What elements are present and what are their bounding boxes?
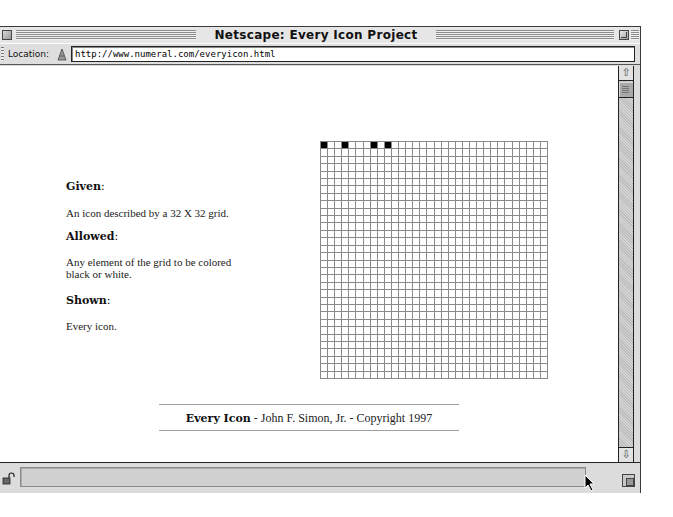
grid-cell[interactable] [364,283,371,290]
grid-cell[interactable] [470,305,477,312]
grid-cell[interactable] [484,268,491,275]
grid-cell[interactable] [520,164,527,171]
grid-cell[interactable] [356,253,363,260]
grid-cell[interactable] [470,320,477,327]
grid-cell[interactable] [328,186,335,193]
grid-cell[interactable] [420,305,427,312]
grid-cell[interactable] [435,268,442,275]
grid-cell[interactable] [399,142,406,149]
grid-cell[interactable] [463,342,470,349]
grid-cell[interactable] [413,268,420,275]
grid-cell[interactable] [349,164,356,171]
grid-cell[interactable] [385,172,392,179]
grid-cell[interactable] [498,290,505,297]
grid-cell[interactable] [456,223,463,230]
grid-cell[interactable] [527,172,534,179]
grid-cell[interactable] [470,172,477,179]
grid-cell[interactable] [449,290,456,297]
grid-cell[interactable] [364,179,371,186]
grid-cell[interactable] [385,268,392,275]
grid-cell[interactable] [520,342,527,349]
grid-cell[interactable] [364,275,371,282]
grid-cell[interactable] [371,298,378,305]
grid-cell[interactable] [498,342,505,349]
grid-cell[interactable] [328,164,335,171]
grid-cell[interactable] [371,268,378,275]
grid-cell[interactable] [399,298,406,305]
grid-cell[interactable] [406,349,413,356]
grid-cell[interactable] [491,186,498,193]
grid-cell[interactable] [364,231,371,238]
grid-cell[interactable] [541,275,548,282]
grid-cell[interactable] [427,372,434,379]
grid-cell[interactable] [328,327,335,334]
grid-cell[interactable] [435,172,442,179]
grid-cell[interactable] [520,142,527,149]
grid-cell[interactable] [456,349,463,356]
grid-cell[interactable] [449,164,456,171]
grid-cell[interactable] [378,142,385,149]
grid-cell[interactable] [463,201,470,208]
grid-cell[interactable] [463,238,470,245]
grid-cell[interactable] [356,209,363,216]
grid-cell[interactable] [399,305,406,312]
grid-cell[interactable] [356,194,363,201]
toolbar-grip-icon[interactable] [1,47,4,61]
grid-cell[interactable] [463,216,470,223]
grid-cell[interactable] [399,342,406,349]
grid-cell[interactable] [435,164,442,171]
grid-cell[interactable] [413,342,420,349]
grid-cell[interactable] [449,312,456,319]
grid-cell[interactable] [449,283,456,290]
grid-cell[interactable] [427,335,434,342]
grid-cell[interactable] [498,238,505,245]
grid-cell[interactable] [484,172,491,179]
grid-cell[interactable] [328,305,335,312]
grid-cell[interactable] [442,186,449,193]
grid-cell[interactable] [513,261,520,268]
grid-cell[interactable] [470,283,477,290]
grid-cell[interactable] [484,320,491,327]
grid-cell[interactable] [321,246,328,253]
grid-cell[interactable] [477,238,484,245]
grid-cell[interactable] [498,209,505,216]
grid-cell[interactable] [335,179,342,186]
grid-cell[interactable] [413,290,420,297]
grid-cell[interactable] [392,172,399,179]
grid-cell[interactable] [442,201,449,208]
grid-cell[interactable] [364,268,371,275]
grid-cell[interactable] [385,216,392,223]
grid-cell[interactable] [385,201,392,208]
grid-cell[interactable] [449,223,456,230]
grid-cell[interactable] [413,327,420,334]
grid-cell[interactable] [328,157,335,164]
grid-cell[interactable] [463,209,470,216]
grid-cell[interactable] [513,157,520,164]
grid-cell[interactable] [498,246,505,253]
grid-cell[interactable] [371,186,378,193]
grid-cell[interactable] [435,349,442,356]
grid-cell[interactable] [520,364,527,371]
grid-cell[interactable] [484,372,491,379]
grid-cell[interactable] [477,357,484,364]
grid-cell[interactable] [477,312,484,319]
grid-cell[interactable] [420,194,427,201]
grid-cell[interactable] [392,179,399,186]
grid-cell[interactable] [541,253,548,260]
grid-cell[interactable] [321,201,328,208]
grid-cell[interactable] [449,357,456,364]
grid-cell[interactable] [378,364,385,371]
grid-cell[interactable] [449,253,456,260]
grid-cell[interactable] [328,298,335,305]
grid-cell[interactable] [449,364,456,371]
grid-cell[interactable] [513,357,520,364]
grid-cell[interactable] [406,364,413,371]
grid-cell[interactable] [534,142,541,149]
grid-cell[interactable] [406,312,413,319]
grid-cell[interactable] [328,142,335,149]
grid-cell[interactable] [456,172,463,179]
grid-cell[interactable] [498,231,505,238]
grid-cell[interactable] [435,246,442,253]
grid-cell[interactable] [534,194,541,201]
grid-cell[interactable] [505,157,512,164]
